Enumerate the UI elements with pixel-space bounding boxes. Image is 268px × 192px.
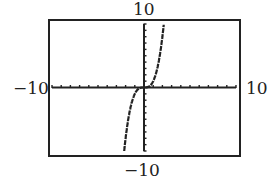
graph-window [0, 0, 268, 192]
